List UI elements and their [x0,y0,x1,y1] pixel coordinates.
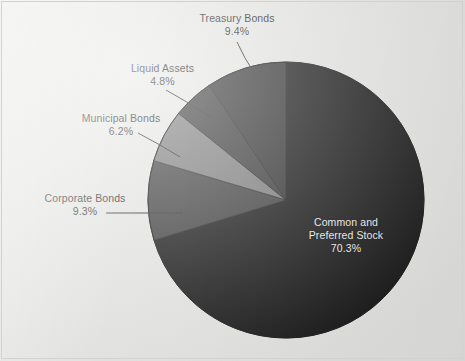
slice-label-municipal-bonds-percent: 6.2% [60,125,182,138]
slice-label-corporate-bonds-percent: 9.3% [24,205,146,218]
pie-chart-canvas [0,0,465,361]
slice-label-liquid-assets-name: Liquid Assets [131,62,194,74]
pie-chart-figure: Treasury Bonds 9.4% Liquid Assets 4.8% M… [0,0,465,361]
slice-label-common-and-preferred-stock: Common and Preferred Stock 70.3% [285,216,407,255]
slice-label-corporate-bonds-name: Corporate Bonds [45,192,126,204]
slice-label-liquid-assets: Liquid Assets 4.8% [110,62,215,87]
slice-label-liquid-assets-percent: 4.8% [110,75,215,88]
slice-label-corporate-bonds: Corporate Bonds 9.3% [24,192,146,217]
slice-label-common-and-preferred-stock-percent: 70.3% [285,242,407,255]
slice-label-treasury-bonds: Treasury Bonds 9.4% [182,12,292,37]
slice-label-treasury-bonds-name: Treasury Bonds [199,12,274,24]
slice-label-municipal-bonds: Municipal Bonds 6.2% [60,112,182,137]
slice-label-treasury-bonds-percent: 9.4% [182,25,292,38]
slice-label-common-and-preferred-stock-line2: Preferred Stock [285,229,407,242]
slice-label-municipal-bonds-name: Municipal Bonds [82,112,161,124]
slice-label-common-and-preferred-stock-line1: Common and [285,216,407,229]
